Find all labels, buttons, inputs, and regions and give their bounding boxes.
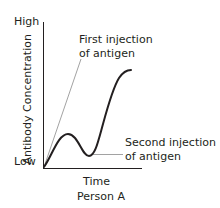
second-injection-label-line1: Second injection xyxy=(125,136,216,149)
antibody-response-diagram: High Low Antibody Concentration First in… xyxy=(0,0,220,208)
y-axis-high-label: High xyxy=(14,15,39,28)
first-injection-label-line2: of antigen xyxy=(79,47,135,60)
first-injection-label-line1: First injection xyxy=(79,33,153,46)
diagram-caption: Person A xyxy=(77,190,125,203)
second-injection-label-line2: of antigen xyxy=(125,150,181,163)
y-axis-title: Antibody Concentration xyxy=(21,35,34,165)
x-axis-title: Time xyxy=(83,175,110,188)
antibody-curve xyxy=(44,70,131,167)
first-injection-pointer xyxy=(44,59,81,167)
